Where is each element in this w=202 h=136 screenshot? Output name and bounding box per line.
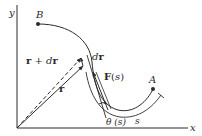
position-vector-r-plus-dr	[17, 58, 81, 128]
diagram-canvas: y x B A s r r + dr dr F(s) θ (s)	[0, 0, 202, 136]
x-axis-label: x	[190, 122, 196, 133]
position-vector-r-plus-dr-label: r + dr	[26, 55, 58, 66]
point-a-dot	[151, 87, 155, 91]
angle-label: θ (s)	[106, 117, 126, 127]
position-vector-r	[17, 66, 83, 128]
point-b-label: B	[35, 9, 43, 20]
y-axis-label: y	[8, 7, 15, 18]
work-integral-diagram: y x B A s r r + dr dr F(s) θ (s)	[0, 0, 202, 136]
force-vector-label: F(s)	[104, 71, 124, 82]
point-b-dot	[36, 22, 40, 26]
arc-length-label: s	[135, 116, 140, 126]
displacement-vector-dr	[81, 58, 83, 66]
point-a-label: A	[148, 74, 156, 85]
displacement-vector-dr-label: dr	[92, 51, 104, 62]
trajectory-curve	[38, 24, 153, 111]
position-vector-r-label: r	[59, 83, 65, 94]
